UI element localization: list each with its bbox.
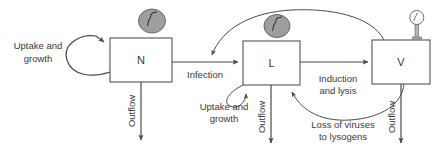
svg-text:Infection: Infection <box>187 69 223 80</box>
bacteriophage-icon <box>410 11 424 40</box>
svg-text:Loss of viruses: Loss of viruses <box>311 119 375 130</box>
svg-text:and lysis: and lysis <box>320 85 357 96</box>
viral-ecology-diagram: N L V Uptake and <box>0 0 440 153</box>
svg-text:Outflow: Outflow <box>386 101 397 133</box>
loss-of-viruses-label: Loss of viruses to lysogens <box>311 119 375 142</box>
induction-lysis-label: Induction and lysis <box>319 73 358 96</box>
outflow-v-label: Outflow <box>386 101 397 133</box>
stock-box-n-label: N <box>137 54 145 66</box>
svg-text:Outflow: Outflow <box>126 95 137 127</box>
outflow-l-label: Outflow <box>256 101 267 133</box>
stock-box-l-label: L <box>268 57 274 69</box>
svg-text:Uptake and: Uptake and <box>200 101 249 112</box>
stock-box-v: V <box>372 40 430 84</box>
uptake-growth-l-label: Uptake and growth <box>200 101 249 124</box>
uptake-growth-n-label: Uptake and growth <box>14 40 63 64</box>
lysogen-cell-icon <box>264 15 290 38</box>
stock-box-n: N <box>110 38 172 82</box>
svg-text:to lysogens: to lysogens <box>319 131 367 142</box>
outflow-n-label: Outflow <box>126 95 137 127</box>
svg-text:Induction: Induction <box>319 73 358 84</box>
diagram-canvas: N L V Uptake and <box>0 0 440 153</box>
stock-box-l: L <box>243 41 300 85</box>
svg-text:Outflow: Outflow <box>256 101 267 133</box>
uptake-growth-n-arrow <box>66 36 110 75</box>
infection-label: Infection <box>187 69 223 80</box>
svg-text:Uptake and: Uptake and <box>14 40 63 51</box>
stock-box-v-label: V <box>397 56 405 68</box>
svg-text:growth: growth <box>210 113 239 124</box>
svg-text:growth: growth <box>24 53 53 64</box>
bacterial-cell-icon <box>139 9 166 33</box>
